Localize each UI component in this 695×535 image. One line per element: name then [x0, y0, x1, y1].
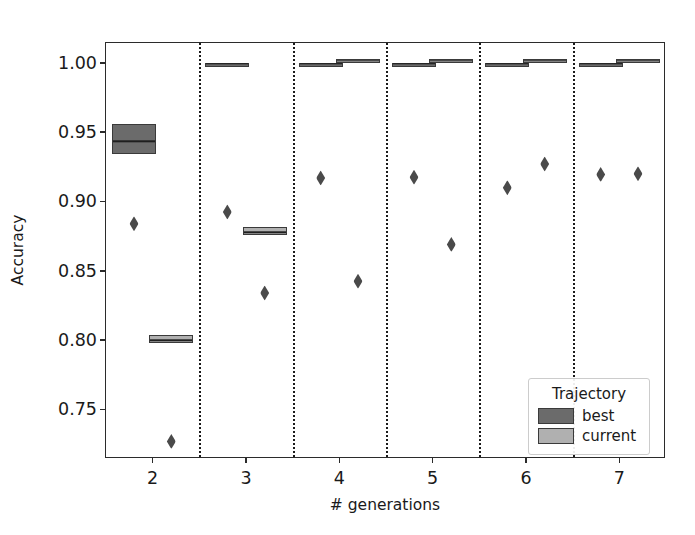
y-tick-label: 0.95 — [58, 122, 97, 142]
median-line — [524, 60, 566, 61]
legend-label: best — [582, 407, 614, 425]
flier-marker — [223, 204, 232, 219]
y-axis-label: Accuracy — [9, 215, 27, 286]
legend-entry: best — [538, 407, 640, 425]
boxplot-box — [336, 59, 380, 63]
group-separator — [293, 43, 295, 457]
legend-title: Trajectory — [538, 385, 640, 403]
y-tick-label: 0.75 — [58, 399, 97, 419]
boxplot-box — [485, 63, 529, 67]
x-tick-mark — [619, 457, 621, 463]
median-line — [300, 63, 342, 64]
y-tick-mark — [100, 201, 106, 203]
median-line — [617, 60, 659, 61]
y-tick-label: 0.80 — [58, 330, 97, 350]
group-separator — [199, 43, 201, 457]
x-tick-mark — [339, 457, 341, 463]
x-tick-mark — [525, 457, 527, 463]
x-tick-label: 5 — [427, 468, 438, 488]
median-line — [580, 63, 622, 64]
legend-entry: current — [538, 427, 640, 445]
boxplot-box — [429, 59, 473, 63]
x-tick-label: 7 — [614, 468, 625, 488]
legend: Trajectory bestcurrent — [528, 378, 650, 455]
y-tick-label: 0.85 — [58, 261, 97, 281]
legend-swatch — [538, 428, 574, 444]
boxplot-figure: Accuracy # generations 0.750.800.850.900… — [0, 0, 695, 535]
y-tick-mark — [100, 270, 106, 272]
flier-marker — [410, 170, 419, 185]
group-separator — [479, 43, 481, 457]
boxplot-box — [112, 124, 156, 155]
x-tick-mark — [432, 457, 434, 463]
boxplot-box — [299, 63, 343, 67]
flier-marker — [634, 166, 643, 181]
x-tick-label: 2 — [147, 468, 158, 488]
boxplot-box — [205, 63, 249, 67]
legend-entries: bestcurrent — [538, 407, 640, 445]
y-tick-mark — [100, 339, 106, 341]
flier-marker — [130, 216, 139, 231]
flier-marker — [596, 167, 605, 182]
boxplot-box — [579, 63, 623, 67]
median-line — [486, 63, 528, 64]
boxplot-box — [523, 59, 567, 63]
group-separator — [386, 43, 388, 457]
median-line — [113, 141, 155, 142]
median-line — [150, 340, 192, 341]
boxplot-box — [243, 227, 287, 235]
y-tick-label: 0.90 — [58, 191, 97, 211]
boxplot-box — [392, 63, 436, 67]
flier-marker — [447, 237, 456, 252]
boxplot-box — [616, 59, 660, 63]
legend-swatch — [538, 408, 574, 424]
x-tick-mark — [152, 457, 154, 463]
y-tick-mark — [100, 409, 106, 411]
x-tick-mark — [245, 457, 247, 463]
x-tick-label: 3 — [240, 468, 251, 488]
median-line — [244, 232, 286, 233]
x-axis-label: # generations — [330, 496, 440, 514]
median-line — [430, 60, 472, 61]
flier-marker — [354, 274, 363, 289]
x-tick-label: 4 — [334, 468, 345, 488]
median-line — [393, 63, 435, 64]
legend-label: current — [582, 427, 636, 445]
boxplot-box — [149, 335, 193, 343]
flier-marker — [503, 180, 512, 195]
median-line — [337, 60, 379, 61]
x-tick-label: 6 — [520, 468, 531, 488]
flier-marker — [167, 434, 176, 449]
flier-marker — [540, 157, 549, 172]
y-tick-mark — [100, 131, 106, 133]
flier-marker — [260, 286, 269, 301]
flier-marker — [316, 170, 325, 185]
y-tick-label: 1.00 — [58, 53, 97, 73]
y-tick-mark — [100, 62, 106, 64]
median-line — [206, 63, 248, 64]
